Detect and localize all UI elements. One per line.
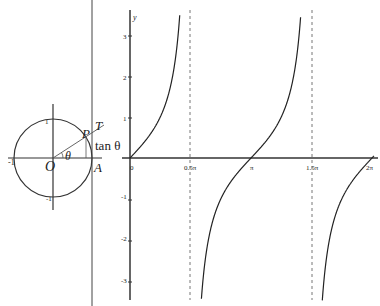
x-tick-two-pi: 2π bbox=[366, 164, 374, 172]
y-axis-label: y bbox=[132, 13, 137, 22]
label-tan-theta: tan θ bbox=[95, 138, 120, 153]
label-neg-one-y: -1 bbox=[46, 195, 52, 203]
label-neg-one-x: -1 bbox=[8, 158, 15, 167]
y-tick-neg-2: -2 bbox=[121, 235, 127, 243]
tan-graph: y 3 2 1 -1 -2 -3 0 0.5π π 1.5π 2π bbox=[121, 10, 378, 300]
label-theta: θ bbox=[65, 149, 71, 163]
diagram-canvas: -1 O A P T θ tan θ 1 -1 y 3 2 1 -1 -2 -3… bbox=[0, 0, 380, 306]
y-tick-neg-1: -1 bbox=[121, 193, 127, 201]
unit-circle-figure: -1 O A P T θ tan θ 1 -1 bbox=[8, 0, 120, 306]
y-tick-3: 3 bbox=[123, 33, 127, 41]
tan-curve-branch-3 bbox=[322, 156, 374, 300]
tan-curve-branch-1 bbox=[130, 15, 180, 158]
label-t: T bbox=[95, 118, 103, 133]
label-origin: O bbox=[45, 159, 55, 174]
y-tick-2: 2 bbox=[123, 74, 127, 82]
y-tick-1: 1 bbox=[123, 115, 127, 123]
label-pos-one-y: 1 bbox=[45, 118, 49, 126]
x-tick-0: 0 bbox=[130, 164, 134, 172]
x-tick-pi: π bbox=[250, 164, 254, 172]
label-p: P bbox=[81, 126, 90, 141]
y-tick-neg-3: -3 bbox=[121, 277, 127, 285]
label-a: A bbox=[93, 160, 102, 175]
angle-arc bbox=[62, 153, 64, 159]
